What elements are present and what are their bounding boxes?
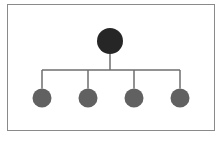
child-node-3: [125, 89, 144, 108]
root-node: [97, 28, 123, 54]
child-node-2: [79, 89, 98, 108]
child-node-1: [33, 89, 52, 108]
hierarchy-diagram: [0, 0, 221, 142]
connector-lines: [42, 54, 180, 89]
diagram-nodes: [33, 28, 190, 108]
child-node-4: [171, 89, 190, 108]
